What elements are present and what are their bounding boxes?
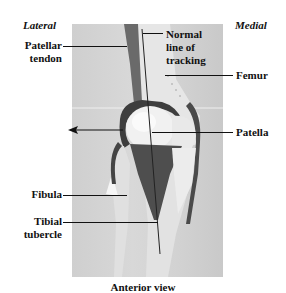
fibula-leader	[63, 195, 127, 196]
tracking-label-line1: Normal	[166, 28, 206, 41]
patella-label: Patella	[236, 126, 268, 139]
lateral-label: Lateral	[23, 19, 56, 32]
patella-leader	[152, 132, 233, 133]
tracking-label: Normal line of tracking	[166, 28, 206, 67]
tracking-leader	[143, 33, 163, 34]
femur-label: Femur	[236, 69, 268, 82]
fibula-label: Fibula	[20, 188, 62, 201]
tibial-tubercle-label: Tibial tubercle	[14, 215, 62, 241]
patellar-tendon-leader	[63, 46, 127, 47]
tracking-label-line2: line of	[166, 41, 206, 54]
tibial-tubercle-leader	[63, 222, 158, 223]
patellar-tendon-label-line2: tendon	[20, 52, 62, 65]
patellar-tendon-label-line1: Patellar	[20, 39, 62, 52]
femur-leader	[165, 75, 233, 76]
lateral-arrow-icon	[68, 124, 128, 136]
medial-label: Medial	[235, 19, 267, 32]
tibial-tubercle-label-line2: tubercle	[14, 228, 62, 241]
tibial-tubercle-label-line1: Tibial	[14, 215, 62, 228]
tracking-label-line3: tracking	[166, 54, 206, 67]
patellar-tendon-label: Patellar tendon	[20, 39, 62, 65]
figure-caption: Anterior view	[0, 281, 286, 293]
